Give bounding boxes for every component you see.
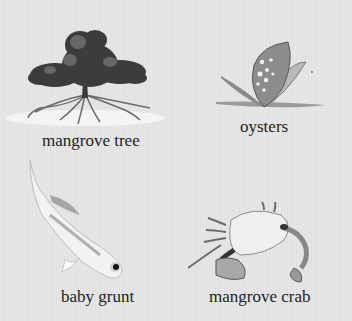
mangrove-crab-panel: mangrove crab: [176, 160, 352, 321]
oysters-label: oysters: [240, 117, 288, 137]
mangrove-tree-panel: mangrove tree: [0, 0, 176, 160]
mangrove-crab-label: mangrove crab: [209, 287, 310, 307]
oysters-panel: oysters: [176, 0, 352, 160]
baby-grunt-label: baby grunt: [61, 287, 134, 307]
mangrove-tree-label: mangrove tree: [42, 131, 140, 151]
baby-grunt-panel: baby grunt: [0, 160, 176, 321]
